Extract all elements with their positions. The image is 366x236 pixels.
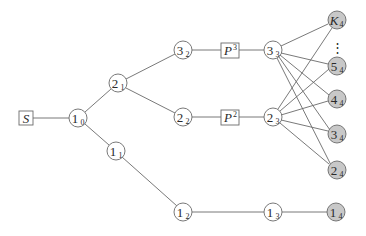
node-label: K (329, 13, 340, 28)
edge-1-0-2-1 (85, 89, 111, 112)
node-sup: 2 (233, 110, 237, 119)
node-label: 3 (267, 43, 274, 58)
node-sup: 3 (233, 43, 237, 52)
node-label: P (223, 43, 232, 58)
node-label: 4 (331, 92, 338, 107)
node-1-2: 1 2 (174, 203, 192, 221)
node-4-4: 4 4 (328, 90, 346, 108)
node-label: 1 (267, 205, 274, 220)
node-k-4: K 4 (328, 11, 346, 29)
node-1-1: 1 1 (107, 142, 125, 160)
node-label: 1 (72, 111, 79, 126)
node-label: 2 (112, 76, 119, 91)
edge-2-1-2-2 (126, 88, 175, 113)
node-sub: 3 (276, 50, 280, 59)
node-label: 5 (331, 59, 338, 74)
edge-2-1-3-2 (126, 54, 175, 79)
node-sub: 4 (340, 170, 344, 179)
node-label: P (223, 110, 232, 125)
node-5-4: 5 4 (328, 57, 346, 75)
node-sub: 0 (81, 118, 85, 127)
node-sub: 4 (339, 212, 343, 221)
node-1-0: 1 0 (69, 109, 87, 127)
node-sub: 1 (121, 83, 125, 92)
node-label: 2 (331, 163, 338, 178)
node-label: 3 (331, 127, 338, 142)
node-3-2: 3 2 (174, 41, 192, 59)
node-2-2: 2 2 (174, 108, 192, 126)
node-s-label: S (23, 111, 30, 126)
node-label: 1 (110, 144, 117, 159)
node-2-4: 2 4 (328, 161, 346, 179)
ellipsis: ⋮ (331, 40, 344, 55)
node-sub: 2 (186, 212, 190, 221)
node-2-3: 2 3 (264, 108, 282, 126)
node-p3: P 3 (221, 43, 239, 58)
node-label: 1 (177, 205, 184, 220)
node-3-3: 3 3 (264, 41, 282, 59)
edge-3-3-k4 (281, 24, 328, 46)
node-1-4: 1 4 (327, 203, 345, 221)
node-sub: 1 (119, 151, 123, 160)
edge-1-0-1-1 (85, 124, 109, 145)
node-label: 2 (177, 110, 184, 125)
edge-1-1-1-2 (122, 157, 177, 206)
node-s: S (19, 111, 33, 126)
node-label: 2 (267, 110, 274, 125)
node-2-1: 2 1 (109, 74, 127, 92)
node-label: 3 (177, 43, 184, 58)
node-p2: P 2 (221, 110, 239, 125)
node-sub: 4 (340, 99, 344, 108)
layered-graph-diagram: S 1 0 2 1 1 1 3 2 2 2 1 2 P 3 (0, 0, 366, 236)
node-1-3: 1 3 (264, 203, 282, 221)
node-label: 1 (330, 205, 337, 220)
node-sub: 2 (186, 50, 190, 59)
node-sub: 4 (340, 20, 344, 29)
node-sub: 2 (186, 117, 190, 126)
node-sub: 3 (276, 117, 280, 126)
node-sub: 4 (340, 134, 344, 143)
node-sub: 4 (340, 66, 344, 75)
edge-3-3-5-4 (281, 53, 328, 64)
node-3-4: 3 4 (328, 125, 346, 143)
edge-2-3-k4 (278, 28, 332, 109)
node-sub: 3 (276, 212, 280, 221)
edge-3-3-3-4 (279, 57, 330, 130)
